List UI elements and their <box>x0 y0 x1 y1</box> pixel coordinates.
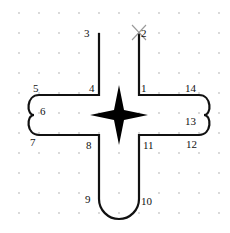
grid-dot <box>198 212 200 214</box>
grid-dot <box>18 52 20 54</box>
grid-dot <box>158 72 160 74</box>
grid-dot <box>78 52 80 54</box>
label-10: 10 <box>141 195 153 207</box>
grid-dot <box>178 52 180 54</box>
grid-dot <box>38 72 40 74</box>
grid-dot <box>18 32 20 34</box>
grid-dot <box>138 132 140 134</box>
label-8: 8 <box>86 139 92 151</box>
grid-dot <box>158 132 160 134</box>
grid-dot <box>158 32 160 34</box>
grid-dot <box>78 132 80 134</box>
grid-dot <box>58 152 60 154</box>
grid-dot <box>18 192 20 194</box>
grid-dot <box>198 172 200 174</box>
grid-dot <box>198 92 200 94</box>
label-1: 1 <box>141 82 147 94</box>
grid-dot <box>198 12 200 14</box>
grid-dot <box>38 212 40 214</box>
grid-dot <box>218 192 220 194</box>
grid-dot <box>218 112 220 114</box>
grid-dot <box>38 132 40 134</box>
grid-dot <box>218 52 220 54</box>
grid-dot <box>178 112 180 114</box>
grid-dot <box>158 212 160 214</box>
grid-dot <box>118 152 120 154</box>
grid-dot <box>78 192 80 194</box>
diagram-canvas: 1 2 3 4 5 6 7 8 9 10 11 12 13 14 <box>0 0 230 233</box>
grid-dot <box>18 152 20 154</box>
label-5: 5 <box>33 82 39 94</box>
grid-dot <box>138 212 140 214</box>
grid-dot <box>118 72 120 74</box>
grid-dot <box>118 32 120 34</box>
grid-dot <box>178 72 180 74</box>
grid-dot <box>58 112 60 114</box>
grid-dot <box>198 132 200 134</box>
grid-dot <box>118 192 120 194</box>
grid-dot <box>178 32 180 34</box>
grid-dot <box>78 212 80 214</box>
grid-dot <box>38 52 40 54</box>
label-7: 7 <box>30 136 36 148</box>
grid-dot <box>158 172 160 174</box>
grid-dot <box>18 12 20 14</box>
grid-dot <box>158 192 160 194</box>
grid-dot <box>178 12 180 14</box>
grid-dot <box>118 212 120 214</box>
grid-dot <box>98 12 100 14</box>
grid-dot <box>38 32 40 34</box>
grid-dot <box>58 172 60 174</box>
grid-dot <box>218 152 220 154</box>
grid-dot <box>218 92 220 94</box>
label-4: 4 <box>89 82 95 94</box>
label-12: 12 <box>186 138 197 150</box>
grid-dot <box>158 92 160 94</box>
grid-dot <box>178 192 180 194</box>
grid-dot <box>158 112 160 114</box>
grid-dot <box>158 52 160 54</box>
grid-dot <box>18 132 20 134</box>
grid-dot <box>58 212 60 214</box>
label-6: 6 <box>40 105 46 117</box>
grid-dot <box>198 52 200 54</box>
grid-dot <box>18 72 20 74</box>
grid-dot <box>58 32 60 34</box>
grid-dot <box>58 72 60 74</box>
grid-dot <box>118 172 120 174</box>
grid-dot <box>98 212 100 214</box>
grid-dot <box>138 12 140 14</box>
grid-dot <box>198 152 200 154</box>
grid-dot <box>78 112 80 114</box>
grid-dot <box>178 132 180 134</box>
grid-dot <box>178 172 180 174</box>
grid-dot <box>218 172 220 174</box>
grid-dot <box>198 72 200 74</box>
grid-dot <box>158 152 160 154</box>
grid-dot <box>178 152 180 154</box>
grid-dot <box>178 212 180 214</box>
grid-dot <box>58 92 60 94</box>
grid-dot <box>198 192 200 194</box>
label-3: 3 <box>84 27 90 39</box>
grid-dot <box>78 172 80 174</box>
grid-dot <box>158 12 160 14</box>
grid-dot <box>38 12 40 14</box>
grid-dot <box>58 192 60 194</box>
label-11: 11 <box>143 139 154 151</box>
label-13: 13 <box>185 115 197 127</box>
grid-dot <box>78 92 80 94</box>
grid-dot <box>118 12 120 14</box>
label-9: 9 <box>85 193 91 205</box>
grid-dot <box>18 92 20 94</box>
grid-dot <box>18 212 20 214</box>
grid-dot <box>38 172 40 174</box>
grid-dot <box>118 52 120 54</box>
grid-dot <box>218 132 220 134</box>
grid-dot <box>218 12 220 14</box>
grid-dot <box>78 72 80 74</box>
grid-dot <box>78 152 80 154</box>
grid-dot <box>218 72 220 74</box>
grid-dot <box>18 172 20 174</box>
label-2: 2 <box>141 27 147 39</box>
